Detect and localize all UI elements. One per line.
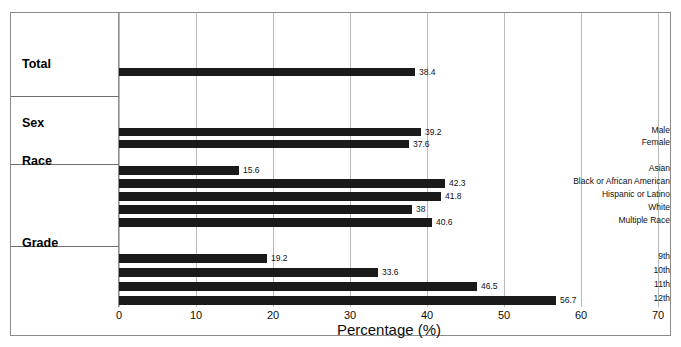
bar-hispanic	[119, 192, 441, 201]
plot-area: Total Sex Race Grade Male Female Asian B…	[11, 13, 670, 335]
bar-12th	[119, 296, 556, 305]
bar-value-hispanic: 41.8	[445, 191, 462, 201]
xtick-60: 60	[561, 309, 601, 321]
xtick-50: 50	[484, 309, 524, 321]
bar-10th	[119, 268, 378, 277]
xtick-40: 40	[407, 309, 447, 321]
category-label-white: White	[566, 202, 670, 212]
bar-value-multiple: 40.6	[436, 217, 453, 227]
xtick-30: 30	[330, 309, 370, 321]
group-header-race: Race	[22, 154, 52, 168]
bar-value-white: 38	[416, 204, 425, 214]
bar-total	[119, 68, 415, 76]
label-column-divider-total	[118, 13, 119, 96]
category-label-black: Black or African American	[566, 176, 670, 186]
category-label-12th: 12th	[566, 293, 670, 303]
x-axis-title: Percentage (%)	[269, 321, 509, 338]
bar-value-12th: 56.7	[560, 295, 577, 305]
xtick-10: 10	[176, 309, 216, 321]
category-label-9th: 9th	[566, 251, 670, 261]
category-label-10th: 10th	[566, 265, 670, 275]
category-label-multiple: Multiple Race	[566, 215, 670, 225]
bar-value-male: 39.2	[425, 127, 442, 137]
category-label-hispanic: Hispanic or Latino	[566, 189, 670, 199]
xtick-0: 0	[99, 309, 139, 321]
bar-value-black: 42.3	[449, 178, 466, 188]
bar-11th	[119, 282, 477, 291]
category-label-asian: Asian	[566, 163, 670, 173]
bar-value-female: 37.6	[413, 139, 430, 149]
group-header-grade: Grade	[22, 236, 58, 250]
bar-9th	[119, 254, 267, 263]
gridline-50	[504, 13, 505, 307]
bar-female	[119, 140, 409, 148]
bar-value-total: 38.4	[419, 67, 436, 77]
bar-value-9th: 19.2	[271, 253, 288, 263]
gridline-30	[350, 13, 351, 307]
bar-value-11th: 46.5	[481, 281, 498, 291]
bar-black	[119, 179, 445, 188]
bar-male	[119, 128, 421, 136]
gridline-60	[581, 13, 582, 307]
bar-value-asian: 15.6	[243, 165, 260, 175]
category-label-female: Female	[566, 137, 670, 147]
bar-multiple	[119, 218, 432, 227]
group-header-sex: Sex	[22, 116, 44, 130]
bar-value-10th: 33.6	[382, 267, 399, 277]
category-label-11th: 11th	[566, 279, 670, 289]
bar-asian	[119, 166, 239, 175]
chart-figure: Total Sex Race Grade Male Female Asian B…	[10, 12, 671, 336]
gridline-40	[427, 13, 428, 307]
gridline-70	[658, 13, 659, 307]
bar-white	[119, 205, 412, 214]
xtick-70: 70	[638, 309, 678, 321]
group-header-total: Total	[22, 57, 51, 71]
category-label-male: Male	[566, 125, 670, 135]
group-separator-total	[11, 96, 119, 97]
xtick-20: 20	[253, 309, 293, 321]
